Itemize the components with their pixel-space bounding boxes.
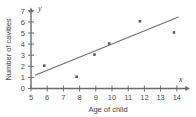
- data-point: [75, 76, 78, 79]
- y-tick-label: 1: [21, 73, 25, 82]
- x-tick-labels: 5 6 7 8 9 10 11 12 13 14: [29, 93, 181, 102]
- trend-line: [35, 17, 178, 75]
- y-tick-label: 7: [21, 7, 25, 16]
- plot-canvas: 0 1 2 3 4 5 6 7 5 6 7 8 9 10 11 12 13 14: [0, 0, 196, 117]
- y-axis-group: [29, 8, 34, 89]
- x-axis-title: Age of child: [88, 105, 127, 114]
- x-tick-label: 9: [94, 93, 98, 102]
- x-tick-label: 11: [124, 93, 132, 102]
- y-tick-label: 6: [21, 18, 25, 27]
- y-tick-label: 2: [21, 62, 25, 71]
- data-point: [43, 64, 46, 67]
- y-axis-symbol-label: y: [37, 4, 42, 13]
- x-axis-group: [31, 86, 190, 91]
- y-axis-title: Number of cavities: [4, 18, 13, 80]
- data-point: [108, 42, 111, 45]
- x-tick-label: 13: [156, 93, 164, 102]
- x-tick-label: 10: [108, 93, 116, 102]
- data-point: [93, 53, 96, 56]
- y-tick-labels: 0 1 2 3 4 5 6 7: [21, 7, 25, 94]
- y-tick-label: 5: [21, 29, 25, 38]
- x-axis-symbol-label: x: [178, 75, 183, 84]
- x-tick-label: 5: [29, 93, 33, 102]
- y-axis-arrowhead: [29, 8, 34, 13]
- y-tick-label: 4: [21, 40, 25, 49]
- x-tick-label: 7: [61, 93, 65, 102]
- x-tick-label: 14: [173, 93, 181, 102]
- x-tick-label: 6: [45, 93, 49, 102]
- x-tick-label: 8: [78, 93, 82, 102]
- x-tick-label: 12: [140, 93, 148, 102]
- data-point: [139, 20, 142, 23]
- data-point: [173, 31, 176, 34]
- y-tick-label: 0: [21, 84, 25, 93]
- x-axis-arrowhead: [185, 86, 190, 91]
- y-tick-label: 3: [21, 51, 25, 60]
- data-points-group: [43, 20, 175, 78]
- scatter-plot-figure: 0 1 2 3 4 5 6 7 5 6 7 8 9 10 11 12 13 14: [0, 0, 196, 117]
